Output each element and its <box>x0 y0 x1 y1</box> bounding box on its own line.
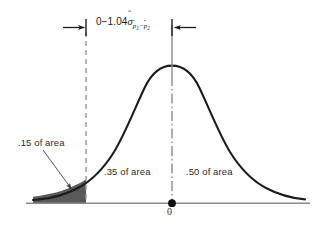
normal-curve-figure: 0−1.04ˆσp1−p2 .15 of area .35 of area .5… <box>0 0 332 233</box>
origin-axis-label: 0 <box>167 206 172 217</box>
normal-curve <box>33 66 305 200</box>
p2-index: 2 <box>147 25 150 31</box>
hat-accent-icon: ˆ <box>128 10 131 20</box>
dimension-prefix: 0−1.04 <box>96 16 127 27</box>
dimension-subscript: p1−p2 <box>133 22 150 30</box>
p2-hat: p <box>144 23 148 31</box>
cut-point-dimension-label: 0−1.04ˆσp1−p2 <box>96 16 150 31</box>
p1-hat: p <box>133 23 137 31</box>
tail-area-label: .15 of area <box>18 138 65 148</box>
figure-canvas <box>0 0 332 233</box>
middle-area-label: .35 of area <box>104 167 151 177</box>
tail-leader-line <box>43 150 72 189</box>
right-area-label: .50 of area <box>186 167 233 177</box>
